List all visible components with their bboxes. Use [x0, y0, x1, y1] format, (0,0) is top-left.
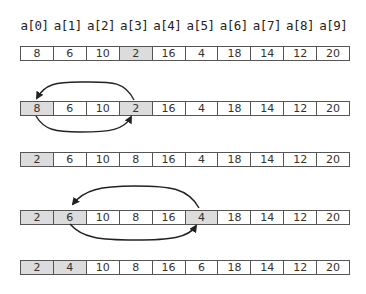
array-cell: 20	[317, 102, 349, 115]
array-row-3: 2 6 10 8 16 4 18 14 12 20	[20, 152, 350, 167]
array-cell: 6	[186, 261, 219, 274]
array-cell-highlighted: 2	[21, 261, 54, 274]
array-cell: 14	[251, 102, 284, 115]
array-cell: 6	[54, 102, 87, 115]
array-cell: 16	[153, 102, 186, 115]
index-label: a[2]	[84, 18, 117, 38]
index-label: a[1]	[51, 18, 84, 38]
array-cell-highlighted: 2	[21, 153, 54, 166]
index-label: a[0]	[18, 18, 51, 38]
array-cell: 12	[284, 153, 317, 166]
array-cell: 8	[120, 211, 153, 224]
array-cell: 14	[251, 261, 284, 274]
array-cell: 10	[87, 102, 120, 115]
array-cell: 16	[153, 153, 186, 166]
array-cell: 18	[218, 261, 251, 274]
array-cell: 12	[284, 211, 317, 224]
swap-arrow-bottom-icon	[36, 116, 131, 132]
array-cell: 8	[120, 153, 153, 166]
array-cell: 12	[284, 102, 317, 115]
index-label: a[7]	[250, 18, 283, 38]
array-cell: 14	[251, 211, 284, 224]
array-cell-highlighted: 4	[54, 261, 87, 274]
swap-arrow-bottom-icon	[70, 224, 196, 240]
array-cell: 18	[218, 47, 251, 60]
array-cell: 8	[120, 261, 153, 274]
array-cell: 16	[153, 211, 186, 224]
array-cell: 4	[186, 47, 219, 60]
array-cell: 10	[87, 211, 120, 224]
array-cell: 20	[317, 211, 349, 224]
index-label: a[9]	[317, 18, 350, 38]
array-cell: 18	[218, 102, 251, 115]
array-cell: 12	[284, 261, 317, 274]
array-row-5: 2 4 10 8 16 6 18 14 12 20	[20, 260, 350, 275]
array-cell: 10	[87, 261, 120, 274]
index-label: a[8]	[284, 18, 317, 38]
array-row-1: 8 6 10 2 16 4 18 14 12 20	[20, 46, 350, 61]
array-cell: 16	[153, 261, 186, 274]
array-row-4: 2 6 10 8 16 4 18 14 12 20	[20, 210, 350, 225]
swap-arrow-top-icon	[73, 186, 199, 208]
index-label: a[6]	[217, 18, 250, 38]
index-labels: a[0] a[1] a[2] a[3] a[4] a[5] a[6] a[7] …	[18, 18, 350, 38]
array-cell-highlighted: 2	[21, 211, 54, 224]
array-cell: 16	[153, 47, 186, 60]
array-cell: 20	[317, 47, 349, 60]
array-cell: 4	[186, 102, 219, 115]
swap-arrow-top-icon	[37, 82, 134, 100]
array-cell-highlighted: 6	[54, 211, 87, 224]
array-cell: 10	[87, 153, 120, 166]
array-cell: 14	[251, 47, 284, 60]
array-cell-highlighted: 2	[120, 102, 153, 115]
array-cell: 12	[284, 47, 317, 60]
swap-arrows	[0, 0, 366, 294]
array-cell: 14	[251, 153, 284, 166]
array-cell: 20	[317, 261, 349, 274]
array-cell: 18	[218, 211, 251, 224]
index-label: a[5]	[184, 18, 217, 38]
array-cell: 20	[317, 153, 349, 166]
array-cell-highlighted: 4	[186, 211, 219, 224]
array-cell-highlighted: 2	[120, 47, 153, 60]
index-label: a[4]	[151, 18, 184, 38]
array-cell: 6	[54, 153, 87, 166]
array-cell: 6	[54, 47, 87, 60]
array-cell-highlighted: 8	[21, 102, 54, 115]
index-label: a[3]	[118, 18, 151, 38]
array-cell: 8	[21, 47, 54, 60]
array-cell: 10	[87, 47, 120, 60]
array-row-2: 8 6 10 2 16 4 18 14 12 20	[20, 101, 350, 116]
array-cell: 4	[186, 153, 219, 166]
array-cell: 18	[218, 153, 251, 166]
